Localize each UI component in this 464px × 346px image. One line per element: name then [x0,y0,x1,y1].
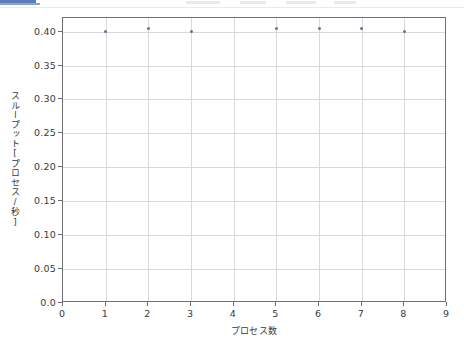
gridline-vertical [191,18,192,301]
x-tick-label: 5 [265,308,285,319]
gridline-vertical [106,18,107,301]
gridline-vertical [319,18,320,301]
gridline-vertical [404,18,405,301]
y-tick-label: 0.0 [10,297,56,308]
y-tick-mark [58,234,62,235]
x-tick-label: 0 [52,308,72,319]
x-tick-mark [446,302,447,306]
x-tick-label: 1 [95,308,115,319]
x-tick-label: 4 [223,308,243,319]
x-tick-mark [233,302,234,306]
gridline-horizontal [63,167,445,168]
gridline-vertical [362,18,363,301]
data-point [104,30,107,33]
x-tick-mark [147,302,148,306]
y-tick-label: 0.05 [10,263,56,274]
y-tick-mark [58,302,62,303]
y-tick-label: 0.15 [10,195,56,206]
x-tick-mark [318,302,319,306]
x-tick-mark [190,302,191,306]
y-tick-mark [58,132,62,133]
x-tick-label: 3 [180,308,200,319]
data-point [403,30,406,33]
plot-area [62,17,446,302]
active-tab-underline [0,3,40,5]
y-tick-mark [58,268,62,269]
x-tick-mark [105,302,106,306]
chart-figure: スループット[プロセス/秒] 0.00.050.100.150.200.250.… [0,8,464,346]
x-tick-label: 9 [436,308,456,319]
gridline-horizontal [63,235,445,236]
data-point [360,27,363,30]
y-tick-mark [58,200,62,201]
y-tick-mark [58,98,62,99]
data-point [147,27,150,30]
gridline-vertical [148,18,149,301]
y-tick-mark [58,31,62,32]
y-tick-mark [58,65,62,66]
x-tick-label: 8 [393,308,413,319]
x-tick-mark [403,302,404,306]
y-tick-label: 0.40 [10,25,56,36]
gridline-horizontal [63,133,445,134]
gridline-horizontal [63,66,445,67]
gridline-vertical [276,18,277,301]
y-tick-label: 0.30 [10,93,56,104]
chrome-ghost-item-3 [286,1,316,4]
x-tick-label: 2 [137,308,157,319]
x-tick-mark [361,302,362,306]
data-point [275,27,278,30]
y-tick-mark [58,166,62,167]
y-tick-label: 0.35 [10,59,56,70]
app-chrome-strip [0,0,464,8]
y-tick-label: 0.10 [10,229,56,240]
data-point [190,30,193,33]
gridline-horizontal [63,32,445,33]
y-tick-label: 0.25 [10,127,56,138]
gridline-horizontal [63,99,445,100]
gridline-horizontal [63,201,445,202]
data-point [318,27,321,30]
chrome-ghost-item-2 [240,1,266,4]
y-tick-label: 0.20 [10,161,56,172]
gridline-vertical [234,18,235,301]
x-axis-label: プロセス数 [62,324,446,337]
gridline-horizontal [63,269,445,270]
x-tick-mark [275,302,276,306]
x-tick-label: 6 [308,308,328,319]
chrome-ghost-item-4 [334,1,356,4]
chrome-ghost-item-1 [186,1,220,4]
y-axis-label: スループット[プロセス/秒] [9,91,22,227]
x-tick-mark [62,302,63,306]
x-tick-label: 7 [351,308,371,319]
